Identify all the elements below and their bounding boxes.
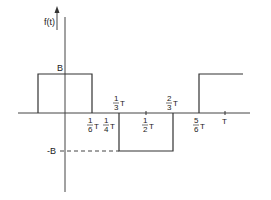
tick-5-6T: 5 6 T <box>193 116 205 134</box>
svg-text:T: T <box>200 122 205 131</box>
svg-text:T: T <box>222 117 227 126</box>
svg-text:T: T <box>110 122 115 131</box>
svg-text:6: 6 <box>88 125 93 134</box>
svg-text:1: 1 <box>143 116 148 125</box>
svg-text:T: T <box>94 122 99 131</box>
tick-1-6T: 1 6 T <box>87 116 99 134</box>
svg-text:4: 4 <box>104 125 109 134</box>
svg-text:T: T <box>120 99 125 108</box>
tick-1-3T: 1 3 T <box>113 94 125 112</box>
pulse-high-2 <box>199 74 243 113</box>
up-arrow-icon <box>55 6 60 13</box>
svg-text:3: 3 <box>167 103 172 112</box>
square-wave-diagram: f(t) B -B 1 6 T 1 4 T 1 3 T 1 2 T 2 3 T <box>0 0 271 200</box>
svg-text:3: 3 <box>114 103 119 112</box>
svg-text:2: 2 <box>167 94 172 103</box>
tick-1-2T: 1 2 T <box>142 111 154 134</box>
y-axis-label: f(t) <box>44 17 55 27</box>
svg-text:1: 1 <box>114 94 119 103</box>
svg-text:T: T <box>149 122 154 131</box>
tick-2-3T: 2 3 T <box>166 94 178 112</box>
svg-text:1: 1 <box>88 116 93 125</box>
level-low-label: -B <box>47 146 56 156</box>
tick-1-4T: 1 4 T <box>103 116 115 134</box>
svg-text:T: T <box>173 99 178 108</box>
svg-text:6: 6 <box>194 125 199 134</box>
svg-text:5: 5 <box>194 116 199 125</box>
svg-text:2: 2 <box>143 125 148 134</box>
level-high-label: B <box>57 63 63 73</box>
svg-text:1: 1 <box>104 116 109 125</box>
